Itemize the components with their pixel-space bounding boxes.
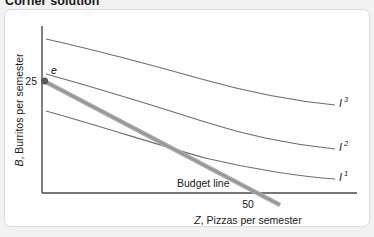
axes (42, 26, 357, 193)
x-tick-label-50: 50 (242, 198, 254, 210)
curve-label-i3-superscript: 3 (344, 95, 349, 104)
page-title: Corner solution (5, 0, 100, 8)
indifference-curve-chart: e 25 50 I 3 I 2 I 1 (5, 10, 370, 227)
y-axis-title-text: , Burritos per semester (13, 53, 25, 160)
curve-label-i1-superscript: 1 (344, 169, 348, 178)
curve-label-i2-letter: I (339, 141, 342, 153)
x-axis-title-text: , Pizzas per semester (201, 214, 302, 226)
chart-card: e 25 50 I 3 I 2 I 1 (4, 9, 370, 227)
curve-label-i3: I 3 (339, 95, 349, 109)
indifference-curve-i3 (46, 39, 335, 105)
curve-label-i2: I 2 (339, 139, 349, 153)
budget-constraint (44, 81, 280, 205)
svg-text:Z, Pizzas per semester: Z, Pizzas per semester (193, 214, 302, 226)
curve-labels: I 3 I 2 I 1 (339, 95, 349, 183)
curve-label-i1: I 1 (339, 169, 348, 183)
indifference-curve-i2 (46, 74, 335, 149)
y-axis-title: B, Burritos per semester (13, 53, 25, 167)
x-axis-title: Z, Pizzas per semester (193, 214, 302, 226)
curve-label-i2-superscript: 2 (343, 139, 349, 148)
svg-text:B, Burritos per semester: B, Burritos per semester (13, 53, 25, 167)
point-label-e: e (51, 64, 57, 76)
figure-root: Corner solution e (0, 0, 374, 237)
point-marker-e (41, 77, 48, 84)
budget-line-label: Budget line (177, 177, 230, 189)
curve-label-i3-letter: I (339, 97, 342, 109)
budget-line-core (44, 81, 280, 205)
tick-labels: 25 50 (25, 75, 254, 210)
y-tick-label-25: 25 (25, 75, 37, 87)
curve-label-i1-letter: I (339, 171, 342, 183)
y-axis-title-variable: B (13, 160, 25, 167)
indifference-curve-i1 (46, 111, 335, 179)
